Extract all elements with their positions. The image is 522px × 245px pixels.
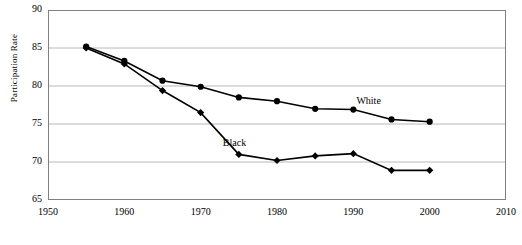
series-annotation-white: White (356, 95, 380, 106)
chart-figure: Participation Rate 195019601970198019902… (0, 0, 522, 245)
x-tick-label-1990: 1990 (333, 206, 373, 217)
data-point-black-1985 (312, 152, 319, 159)
x-tick-label-1970: 1970 (181, 206, 221, 217)
x-tick-label-2010: 2010 (486, 206, 522, 217)
x-tick-label-2000: 2000 (410, 206, 450, 217)
data-point-white-1975 (236, 94, 242, 100)
plot-frame (49, 11, 506, 200)
plot-area (48, 10, 506, 200)
data-point-black-1995 (388, 167, 395, 174)
y-tick-label-80: 80 (16, 79, 42, 90)
series-line-black (86, 48, 430, 170)
data-point-white-1985 (312, 106, 318, 112)
line-chart-canvas (48, 10, 506, 200)
data-point-white-1970 (198, 84, 204, 90)
y-tick-label-65: 65 (16, 193, 42, 204)
data-point-white-2000 (427, 119, 433, 125)
data-point-white-1990 (350, 106, 356, 112)
x-tick-label-1960: 1960 (104, 206, 144, 217)
series-line-white (86, 46, 430, 121)
data-point-black-1980 (273, 157, 280, 164)
data-point-black-2000 (426, 167, 433, 174)
x-tick-label-1950: 1950 (28, 206, 68, 217)
data-point-white-1980 (274, 98, 280, 104)
data-point-black-1990 (350, 150, 357, 157)
y-tick-label-70: 70 (16, 155, 42, 166)
data-point-white-1995 (388, 116, 394, 122)
y-tick-label-90: 90 (16, 3, 42, 14)
data-point-white-1965 (159, 78, 165, 84)
y-tick-label-75: 75 (16, 117, 42, 128)
y-tick-label-85: 85 (16, 41, 42, 52)
series-annotation-black: Black (223, 137, 246, 148)
x-tick-label-1980: 1980 (257, 206, 297, 217)
